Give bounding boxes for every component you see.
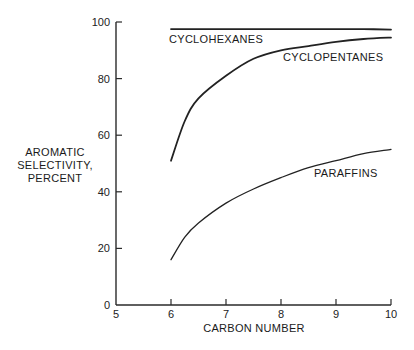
y-tick-label: 60	[98, 129, 110, 141]
label-cyclopentanes: CYCLOPENTANES	[283, 51, 383, 63]
y-axis-title-line: SELECTIVITY,	[0, 159, 110, 172]
x-tick-label: 8	[278, 308, 284, 320]
axes	[116, 22, 391, 305]
x-tick-label: 9	[333, 308, 339, 320]
label-cyclohexanes: CYCLOHEXANES	[169, 33, 263, 45]
series-lines	[171, 29, 391, 260]
x-tick-label: 10	[385, 308, 397, 320]
label-paraffins: PARAFFINS	[314, 167, 378, 179]
series-line-cyclohexanes	[171, 29, 391, 30]
y-axis-title-line: PERCENT	[0, 172, 110, 185]
x-tick-label: 7	[223, 308, 229, 320]
x-tick-label: 6	[168, 308, 174, 320]
y-tick-label: 20	[98, 242, 110, 254]
y-tick-label: 100	[92, 16, 110, 28]
y-axis-title: AROMATIC SELECTIVITY, PERCENT	[0, 146, 110, 185]
y-tick-label: 40	[98, 186, 110, 198]
x-axis-title: CARBON NUMBER	[203, 322, 305, 334]
y-axis-title-line: AROMATIC	[0, 146, 110, 159]
x-tick-label: 5	[113, 308, 119, 320]
y-tick-label: 0	[104, 299, 110, 311]
series-line-paraffins	[171, 149, 391, 259]
x-ticks: 5678910	[113, 299, 397, 320]
y-tick-label: 80	[98, 73, 110, 85]
